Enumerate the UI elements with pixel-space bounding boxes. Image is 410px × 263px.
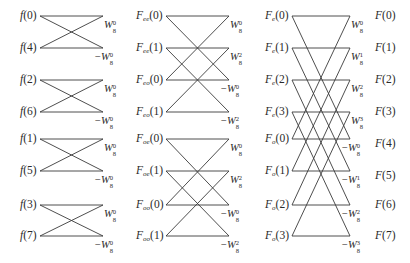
stage3-input-label: Fo(2)	[265, 198, 289, 214]
twiddle-n: 8	[110, 180, 113, 191]
output-label: F(6)	[375, 198, 395, 210]
twiddle-exponent-group: 08	[113, 83, 118, 97]
twiddle-base: W	[348, 239, 357, 250]
label-name: F	[265, 164, 272, 176]
twiddle-n: 8	[236, 245, 239, 256]
twiddle-label: W08	[351, 19, 365, 33]
twiddle-label: −W08	[221, 83, 241, 97]
stage1-input-label: f(7)	[20, 229, 37, 241]
label-subscript: eo	[143, 79, 150, 87]
twiddle-label: W28	[351, 83, 365, 97]
label-name: F	[375, 9, 382, 21]
twiddle-label: W08	[230, 19, 244, 33]
twiddle-label: −W18	[342, 174, 362, 188]
twiddle-label: W08	[104, 142, 118, 156]
paren-close: )	[285, 132, 289, 144]
label-name: F	[136, 132, 143, 144]
paren-close: )	[33, 164, 37, 176]
paren-close: )	[159, 105, 163, 117]
twiddle-label: −W08	[95, 51, 115, 65]
paren-close: )	[33, 198, 37, 210]
twiddle-n: 8	[113, 214, 116, 225]
paren-close: )	[33, 229, 37, 241]
paren-close: )	[285, 73, 289, 85]
label-name: F	[265, 229, 272, 241]
stage1-input-label: f(6)	[20, 105, 37, 117]
twiddle-label: −W28	[342, 208, 362, 222]
stage3-input-label: Fe(1)	[265, 41, 289, 57]
stage1-input-label: f(4)	[20, 41, 37, 53]
twiddle-n: 8	[113, 148, 116, 159]
stage1-input-label: f(2)	[20, 73, 37, 85]
label-name: F	[136, 41, 143, 53]
twiddle-exponent-group: 08	[113, 19, 118, 33]
twiddle-base: W	[227, 83, 236, 94]
output-label: F(2)	[375, 73, 395, 85]
twiddle-label: W08	[104, 208, 118, 222]
stage1-input-label: f(3)	[20, 198, 37, 210]
paren-close: )	[33, 105, 37, 117]
twiddle-exponent-group: 08	[236, 208, 241, 222]
twiddle-n: 8	[357, 180, 360, 191]
stage2-input-label: Fee(0)	[136, 9, 163, 25]
twiddle-base: W	[227, 239, 236, 250]
twiddle-base: W	[348, 174, 357, 185]
twiddle-n: 8	[113, 25, 116, 36]
twiddle-exponent-group: 38	[360, 115, 365, 129]
stage1-input-label: f(1)	[20, 132, 37, 144]
twiddle-exponent-group: 08	[236, 83, 241, 97]
twiddle-n: 8	[239, 148, 242, 159]
label-name: F	[136, 164, 143, 176]
stage3-input-label: Fe(0)	[265, 9, 289, 25]
label-name: F	[375, 73, 382, 85]
twiddle-base: W	[230, 142, 239, 153]
twiddle-label: −W08	[342, 142, 362, 156]
twiddle-label: −W08	[95, 239, 115, 253]
twiddle-n: 8	[110, 245, 113, 256]
stage1-input-label: f(0)	[20, 9, 37, 21]
label-subscript: oe	[143, 138, 150, 146]
output-label: F(4)	[375, 137, 395, 149]
twiddle-label: W18	[351, 51, 365, 65]
twiddle-label: −W28	[221, 115, 241, 129]
twiddle-base: W	[104, 19, 113, 30]
twiddle-exponent-group: 08	[239, 142, 244, 156]
twiddle-base: W	[348, 208, 357, 219]
paren-close: )	[159, 132, 163, 144]
twiddle-label: W08	[230, 142, 244, 156]
twiddle-label: W38	[351, 115, 365, 129]
twiddle-exponent-group: 08	[110, 239, 115, 253]
twiddle-exponent-group: 18	[360, 51, 365, 65]
twiddle-exponent-group: 08	[110, 115, 115, 129]
stage2-input-label: Fee(1)	[136, 41, 163, 57]
paren-close: )	[159, 73, 163, 85]
twiddle-base: W	[351, 51, 360, 62]
twiddle-base: W	[104, 83, 113, 94]
twiddle-exponent-group: 08	[110, 51, 115, 65]
label-name: F	[136, 229, 143, 241]
twiddle-label: −W08	[221, 208, 241, 222]
twiddle-label: W28	[230, 174, 244, 188]
twiddle-n: 8	[113, 89, 116, 100]
label-name: F	[375, 169, 382, 181]
twiddle-n: 8	[239, 25, 242, 36]
stage2-input-label: Foe(1)	[136, 164, 163, 180]
paren-close: )	[285, 229, 289, 241]
twiddle-base: W	[101, 239, 110, 250]
twiddle-exponent-group: 28	[360, 83, 365, 97]
twiddle-exponent-group: 28	[357, 208, 362, 222]
twiddle-base: W	[230, 174, 239, 185]
twiddle-n: 8	[236, 121, 239, 132]
label-name: F	[265, 198, 272, 210]
stage3-input-label: Fe(2)	[265, 73, 289, 89]
twiddle-n: 8	[357, 214, 360, 225]
twiddle-label: W08	[104, 83, 118, 97]
twiddle-base: W	[101, 51, 110, 62]
twiddle-exponent-group: 28	[239, 51, 244, 65]
stage2-input-label: Foe(0)	[136, 132, 163, 148]
label-name: F	[375, 198, 382, 210]
twiddle-n: 8	[360, 89, 363, 100]
twiddle-label: W08	[104, 19, 118, 33]
paren-close: )	[392, 9, 396, 21]
label-name: F	[265, 73, 272, 85]
